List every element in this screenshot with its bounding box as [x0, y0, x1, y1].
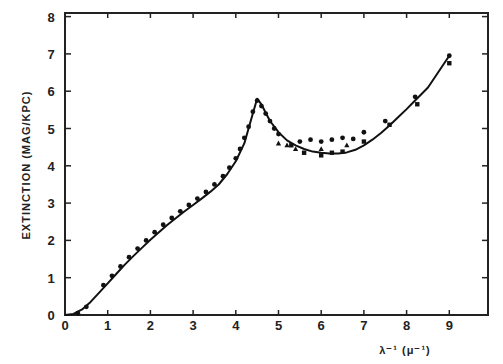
data-point-square — [302, 151, 306, 155]
x-tick-label: 6 — [318, 318, 325, 333]
x-tick-label: 2 — [147, 318, 154, 333]
x-axis-ticks: 0123456789 — [61, 13, 453, 333]
data-point-triangle — [276, 141, 281, 146]
data-point-circle — [319, 139, 324, 144]
data-point-circle — [340, 135, 345, 140]
plot-border — [65, 13, 488, 315]
y-tick-label: 5 — [47, 122, 54, 137]
data-point-circle — [195, 196, 200, 201]
y-tick-label: 4 — [47, 159, 55, 174]
data-point-circle — [259, 104, 264, 109]
data-point-circle — [351, 137, 356, 142]
y-tick-label: 0 — [47, 308, 54, 323]
data-point-circle — [447, 53, 452, 58]
x-tick-label: 3 — [189, 318, 196, 333]
data-point-square — [362, 139, 366, 143]
extinction-chart: 0123456789 012345678 λ⁻¹ (μ⁻¹) EXTINCTIO… — [0, 0, 503, 364]
data-point-square — [415, 102, 419, 106]
data-point-triangle — [344, 142, 349, 147]
data-point-circle — [186, 203, 191, 208]
data-point-square — [340, 149, 344, 153]
data-point-circle — [383, 119, 388, 124]
x-tick-label: 5 — [275, 318, 282, 333]
x-tick-label: 7 — [360, 318, 367, 333]
data-point-circle — [178, 209, 183, 214]
data-point-square — [330, 151, 334, 155]
data-point-circle — [221, 174, 226, 179]
y-tick-label: 2 — [47, 233, 54, 248]
data-point-circle — [118, 264, 123, 269]
x-tick-label: 0 — [61, 318, 68, 333]
plot-frame — [65, 13, 488, 315]
data-point-circle — [263, 111, 268, 116]
x-tick-label: 9 — [446, 318, 453, 333]
data-point-circle — [101, 283, 106, 288]
data-point-circle — [242, 135, 247, 140]
data-point-circle — [297, 139, 302, 144]
x-tick-label: 8 — [403, 318, 410, 333]
data-point-circle — [161, 222, 166, 227]
fit-curve-path — [65, 56, 449, 315]
data-point-circle — [272, 126, 277, 131]
y-axis-label: EXTINCTION (MAG/KPC) — [20, 91, 32, 240]
data-point-circle — [250, 109, 255, 114]
data-point-square — [319, 153, 323, 157]
data-point-circle — [212, 182, 217, 187]
data-point-triangle — [284, 142, 289, 147]
data-point-circle — [127, 255, 132, 260]
data-point-circle — [413, 94, 418, 99]
data-point-square — [447, 61, 451, 65]
data-point-circle — [246, 124, 251, 129]
x-axis-label: λ⁻¹ (μ⁻¹) — [379, 344, 431, 356]
data-point-circle — [308, 137, 313, 142]
fit-curve — [65, 56, 449, 315]
data-point-triangle — [319, 146, 324, 151]
y-tick-label: 3 — [47, 196, 54, 211]
data-point-circle — [144, 238, 149, 243]
data-point-circle — [152, 230, 157, 235]
data-point-circle — [276, 132, 281, 137]
data-point-circle — [329, 137, 334, 142]
data-point-circle — [135, 246, 140, 251]
data-point-circle — [233, 156, 238, 161]
y-tick-label: 6 — [47, 84, 54, 99]
data-point-square — [387, 123, 391, 127]
data-point-circle — [255, 98, 260, 103]
y-tick-label: 8 — [47, 10, 54, 25]
data-point-circle — [84, 304, 89, 309]
data-point-circle — [238, 147, 243, 152]
data-point-circle — [75, 311, 80, 316]
data-point-circle — [169, 216, 174, 221]
y-tick-label: 7 — [47, 47, 54, 62]
data-point-circle — [268, 119, 273, 124]
data-point-circle — [110, 273, 115, 278]
x-tick-label: 1 — [104, 318, 111, 333]
data-point-circle — [227, 165, 232, 170]
x-tick-label: 4 — [232, 318, 240, 333]
y-tick-label: 1 — [47, 271, 54, 286]
data-point-square — [289, 143, 293, 147]
data-point-circle — [362, 130, 367, 135]
data-point-circle — [204, 190, 209, 195]
data-markers — [75, 53, 451, 315]
